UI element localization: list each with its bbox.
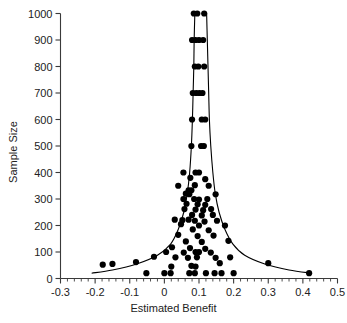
data-point — [175, 183, 181, 189]
data-point — [172, 254, 178, 260]
y-tick-label: 0 — [46, 273, 52, 285]
data-point — [208, 206, 214, 212]
y-tick-label: 800 — [34, 61, 52, 73]
data-point — [196, 169, 202, 175]
data-point — [180, 169, 186, 175]
x-tick-label: 0.3 — [261, 286, 276, 298]
data-point — [192, 270, 198, 276]
data-point — [201, 10, 207, 16]
y-axis-title: Sample Size — [7, 113, 19, 191]
y-tick-label: 100 — [34, 246, 52, 258]
data-point — [100, 262, 106, 268]
data-point — [185, 255, 191, 261]
y-tick-label: 900 — [34, 34, 52, 46]
data-point — [218, 270, 224, 276]
data-point — [194, 254, 200, 260]
data-point — [201, 63, 207, 69]
plot-canvas: -0.3-0.2-0.100.10.20.30.40.5010020030040… — [0, 0, 347, 323]
data-point — [200, 207, 206, 213]
data-point — [151, 254, 157, 260]
data-point — [203, 270, 209, 276]
data-point — [178, 221, 184, 227]
data-point — [227, 254, 233, 260]
y-tick-label: 400 — [34, 167, 52, 179]
data-point — [265, 260, 271, 266]
data-point — [175, 232, 181, 238]
x-tick-label: -0.1 — [120, 286, 139, 298]
data-point — [225, 238, 231, 244]
data-point — [196, 249, 202, 255]
y-tick-label: 500 — [34, 140, 52, 152]
data-point — [231, 270, 237, 276]
data-point — [222, 222, 228, 228]
data-point — [186, 217, 192, 223]
data-point — [133, 259, 139, 265]
data-point — [168, 263, 174, 269]
y-tick-label: 200 — [34, 220, 52, 232]
data-point — [196, 222, 202, 228]
data-point — [202, 246, 208, 252]
data-point — [213, 191, 219, 197]
x-tick-label: 0.1 — [191, 286, 206, 298]
data-point — [211, 270, 217, 276]
data-point — [210, 212, 216, 218]
data-point — [213, 255, 219, 261]
y-tick-label: 1000 — [28, 8, 52, 20]
data-point — [206, 227, 212, 233]
data-point — [199, 90, 205, 96]
x-tick-label: 0.4 — [295, 286, 310, 298]
data-point — [201, 143, 207, 149]
y-tick-label: 300 — [34, 193, 52, 205]
data-point — [187, 245, 193, 251]
data-point — [204, 196, 210, 202]
x-tick-label: -0.3 — [51, 286, 70, 298]
data-point — [192, 218, 198, 224]
data-point — [190, 226, 196, 232]
data-point — [194, 10, 200, 16]
data-point — [163, 249, 169, 255]
data-point — [202, 176, 208, 182]
data-point — [181, 206, 187, 212]
data-point — [183, 201, 189, 207]
y-tick-label: 700 — [34, 87, 52, 99]
data-point — [214, 218, 220, 224]
funnel-right-bound — [207, 14, 312, 274]
data-point — [192, 182, 198, 188]
data-point — [192, 263, 198, 269]
axes-group — [56, 14, 338, 284]
data-point — [187, 175, 193, 181]
data-point — [208, 249, 214, 255]
data-point — [200, 37, 206, 43]
data-points-group — [100, 10, 313, 276]
data-point — [199, 212, 205, 218]
x-tick-label: 0.2 — [226, 286, 241, 298]
data-point — [306, 270, 312, 276]
tick-labels-group: -0.3-0.2-0.100.10.20.30.40.5010020030040… — [28, 8, 345, 298]
data-point — [169, 244, 175, 250]
data-point — [206, 183, 212, 189]
x-axis-title: Estimated Benefit — [0, 302, 347, 314]
data-point — [161, 270, 167, 276]
data-point — [195, 201, 201, 207]
x-tick-label: 0.5 — [330, 286, 345, 298]
data-point — [181, 249, 187, 255]
data-point — [195, 63, 201, 69]
data-point — [186, 270, 192, 276]
data-point — [143, 270, 149, 276]
x-tick-label: 0 — [161, 286, 167, 298]
data-point — [199, 239, 205, 245]
data-point — [192, 207, 198, 213]
data-point — [201, 218, 207, 224]
y-tick-label: 600 — [34, 114, 52, 126]
data-point — [168, 270, 174, 276]
data-point — [183, 238, 189, 244]
data-point — [195, 233, 201, 239]
data-point — [186, 191, 192, 197]
data-point — [172, 217, 178, 223]
data-point — [109, 261, 115, 267]
x-tick-label: -0.2 — [86, 286, 105, 298]
data-point — [202, 116, 208, 122]
funnel-plot-figure: -0.3-0.2-0.100.10.20.30.40.5010020030040… — [0, 0, 347, 323]
data-point — [217, 260, 223, 266]
data-point — [202, 202, 208, 208]
